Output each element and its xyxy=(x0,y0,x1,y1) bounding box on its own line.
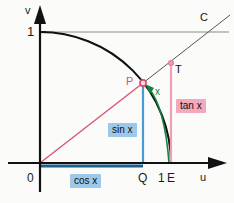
tan-x-label: tan x xyxy=(176,99,206,113)
cos-x-label: cos x xyxy=(70,174,101,188)
v-axis-arrowhead-icon xyxy=(34,5,46,24)
point-label-E: E xyxy=(167,172,175,184)
point-marker-P xyxy=(140,80,146,86)
point-label-Q: Q xyxy=(138,172,147,184)
unit-circle-arc xyxy=(40,32,171,163)
v-axis-tick-label-1: 1 xyxy=(27,25,34,38)
point-label-T: T xyxy=(175,64,182,75)
point-marker-T xyxy=(169,61,174,66)
angle-label-x: x xyxy=(155,87,160,97)
ray-segment-P-to-C xyxy=(143,15,230,83)
point-label-P: P xyxy=(126,76,133,87)
point-label-C: C xyxy=(200,12,208,23)
u-axis-tick-label-1: 1 xyxy=(158,172,165,184)
u-axis-label: u xyxy=(200,172,206,183)
sin-x-label: sin x xyxy=(108,123,137,137)
origin-label: 0 xyxy=(27,172,34,184)
v-axis-label: v xyxy=(25,5,31,16)
u-axis-arrowhead-icon xyxy=(208,157,227,169)
trig-diagram: v 1 0 Q 1 E u P T C x sin x cos x tan x xyxy=(0,0,234,203)
